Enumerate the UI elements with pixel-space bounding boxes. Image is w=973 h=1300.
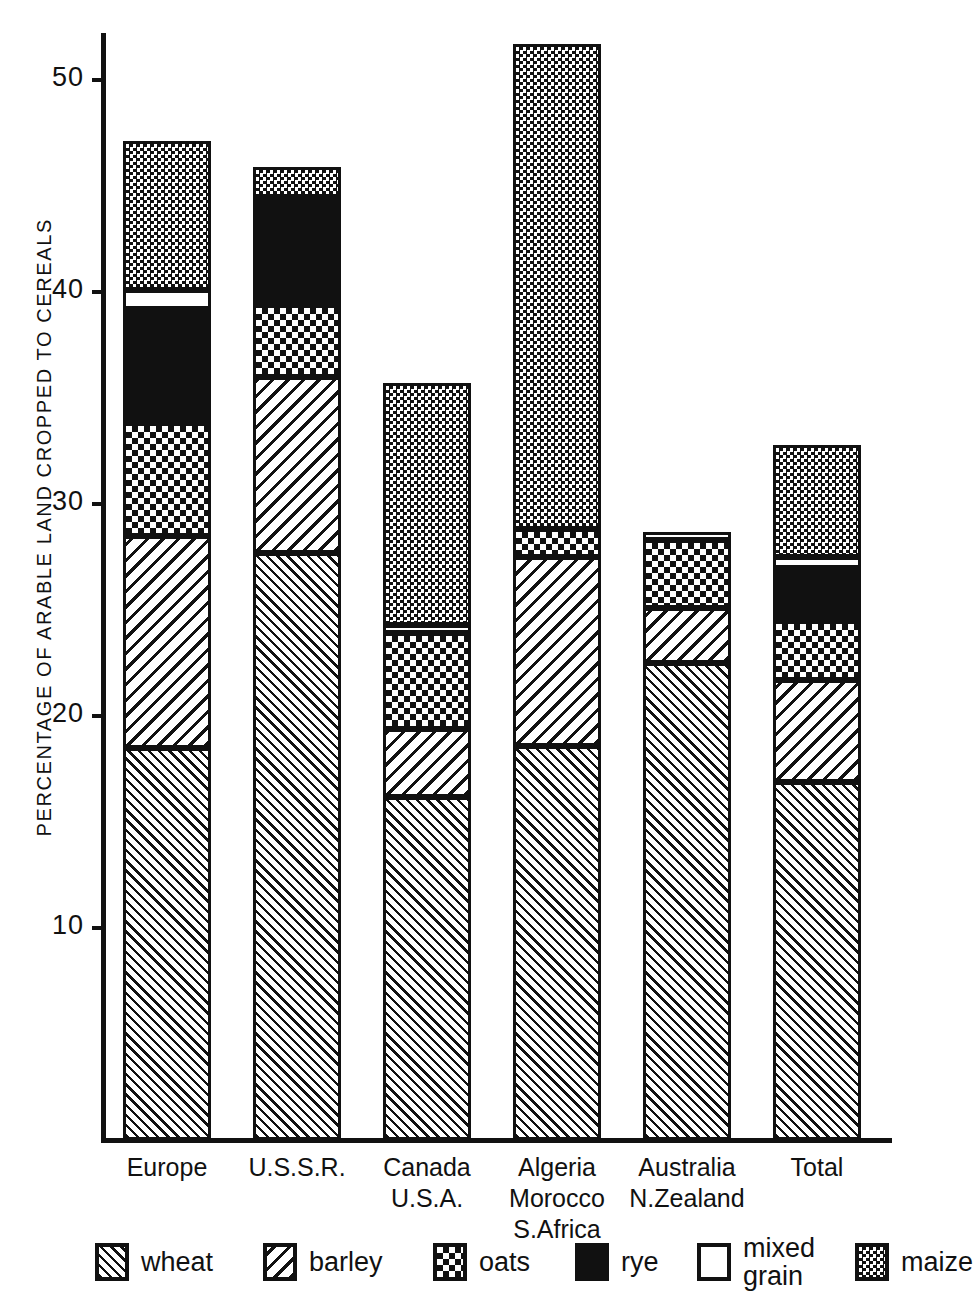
legend-label: rye	[621, 1248, 659, 1276]
segment-pattern	[776, 785, 858, 1137]
segment-pattern	[646, 611, 728, 660]
segment-pattern	[126, 539, 208, 745]
bar-segment-maize[interactable]	[253, 167, 341, 197]
bar-segment-oats[interactable]	[383, 633, 471, 728]
bar-segment-mixed-grain[interactable]	[773, 557, 861, 568]
legend-item-rye[interactable]: rye	[575, 1232, 659, 1292]
bar-segment-oats[interactable]	[123, 423, 211, 535]
legend-item-maize[interactable]: maize	[855, 1232, 973, 1292]
legend-swatch-diagonal-hatch-right	[95, 1243, 129, 1281]
segment-pattern	[516, 749, 598, 1137]
segment-pattern	[646, 666, 728, 1137]
legend-label: oats	[479, 1248, 530, 1276]
bar-segment-barley[interactable]	[383, 729, 471, 797]
bar-segment-wheat[interactable]	[773, 782, 861, 1140]
bar-stack[interactable]	[643, 0, 731, 1300]
bar-stack[interactable]	[123, 0, 211, 1300]
bar-segment-oats[interactable]	[513, 529, 601, 557]
bar-stack[interactable]	[773, 0, 861, 1300]
bar-segment-barley[interactable]	[513, 557, 601, 746]
y-tick-50	[92, 78, 106, 82]
y-tick-10	[92, 926, 106, 930]
bar-segment-rye[interactable]	[773, 568, 861, 621]
legend-item-wheat[interactable]: wheat	[95, 1232, 213, 1292]
segment-pattern	[386, 386, 468, 622]
legend-swatch-checker-fine	[855, 1243, 889, 1281]
legend-item-barley[interactable]: barley	[263, 1232, 383, 1292]
segment-pattern	[256, 380, 338, 550]
legend-swatch-empty-white	[697, 1243, 731, 1281]
segment-pattern	[386, 800, 468, 1137]
segment-pattern	[776, 560, 858, 565]
bar-segment-wheat[interactable]	[383, 797, 471, 1140]
segment-pattern	[256, 308, 338, 374]
segment-pattern	[776, 683, 858, 779]
bar-segment-barley[interactable]	[123, 536, 211, 748]
bar-stack[interactable]	[253, 0, 341, 1300]
segment-pattern	[126, 751, 208, 1137]
legend-item-oats[interactable]: oats	[433, 1232, 530, 1292]
y-axis-line	[101, 33, 106, 1143]
bar-segment-maize[interactable]	[383, 383, 471, 625]
bar-segment-mixed-grain[interactable]	[123, 290, 211, 309]
segment-pattern	[386, 628, 468, 630]
bar-segment-mixed-grain[interactable]	[643, 532, 731, 540]
segment-pattern	[776, 624, 858, 677]
legend-swatch-diagonal-hatch-left	[263, 1243, 297, 1281]
bar-segment-rye[interactable]	[253, 197, 341, 305]
legend-item-mixed-grain[interactable]: mixed grain	[697, 1232, 815, 1292]
segment-pattern	[256, 170, 338, 194]
y-tick-40	[92, 290, 106, 294]
segment-pattern	[516, 47, 598, 526]
y-tick-30	[92, 502, 106, 506]
segment-pattern	[646, 543, 728, 605]
bar-segment-wheat[interactable]	[123, 748, 211, 1140]
swatch-pattern	[267, 1247, 293, 1277]
bar-segment-oats[interactable]	[253, 305, 341, 377]
segment-pattern	[386, 636, 468, 725]
segment-pattern	[776, 448, 858, 554]
bar-segment-barley[interactable]	[773, 680, 861, 782]
swatch-pattern	[859, 1247, 885, 1277]
legend-swatch-solid-black	[575, 1243, 609, 1281]
segment-pattern	[256, 200, 338, 302]
y-tick-label-50: 50	[38, 62, 84, 93]
segment-pattern	[386, 732, 468, 794]
bar-stack[interactable]	[383, 0, 471, 1300]
bar-segment-maize[interactable]	[513, 44, 601, 529]
segment-pattern	[516, 560, 598, 743]
segment-pattern	[646, 535, 728, 537]
swatch-pattern	[99, 1247, 125, 1277]
bar-segment-rye[interactable]	[123, 309, 211, 423]
segment-pattern	[126, 312, 208, 420]
segment-pattern	[126, 293, 208, 306]
bar-segment-barley[interactable]	[253, 377, 341, 553]
bar-segment-barley[interactable]	[643, 608, 731, 663]
legend-label: wheat	[141, 1248, 213, 1276]
bar-segment-maize[interactable]	[123, 141, 211, 289]
swatch-pattern	[701, 1247, 727, 1277]
bar-stack[interactable]	[513, 0, 601, 1300]
y-tick-label-40: 40	[38, 274, 84, 305]
bar-segment-wheat[interactable]	[513, 746, 601, 1140]
segment-pattern	[516, 532, 598, 554]
bar-segment-mixed-grain[interactable]	[383, 625, 471, 633]
bar-segment-oats[interactable]	[643, 540, 731, 608]
bar-segment-wheat[interactable]	[253, 553, 341, 1140]
segment-pattern	[776, 571, 858, 618]
y-tick-label-10: 10	[38, 910, 84, 941]
y-axis-title: PERCENTAGE OF ARABLE LAND CROPPED TO CER…	[33, 277, 56, 837]
legend-label: mixed grain	[743, 1234, 815, 1290]
y-tick-label-30: 30	[38, 486, 84, 517]
bar-segment-maize[interactable]	[773, 445, 861, 557]
y-tick-label-20: 20	[38, 698, 84, 729]
legend-swatch-checker-coarse	[433, 1243, 467, 1281]
y-tick-20	[92, 714, 106, 718]
swatch-pattern	[437, 1247, 463, 1277]
segment-pattern	[126, 144, 208, 286]
bar-segment-wheat[interactable]	[643, 663, 731, 1140]
segment-pattern	[126, 426, 208, 532]
bar-segment-oats[interactable]	[773, 621, 861, 680]
swatch-pattern	[579, 1247, 605, 1277]
